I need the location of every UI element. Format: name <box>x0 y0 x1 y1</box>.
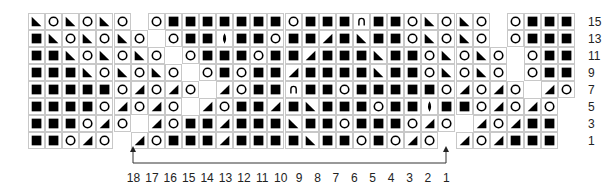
row-number-label: 15 <box>588 15 601 29</box>
stitch-number-label: 17 <box>143 171 160 185</box>
stitch-number-label: 4 <box>383 171 400 185</box>
stitch-number-label: 6 <box>346 171 363 185</box>
row-number-label: 9 <box>588 66 595 80</box>
stitch-number-label: 11 <box>254 171 271 185</box>
row-number-label: 5 <box>588 100 595 114</box>
stitch-number-label: 3 <box>401 171 418 185</box>
stitch-number-label: 13 <box>217 171 234 185</box>
stitch-number-label: 18 <box>125 171 142 185</box>
row-number-label: 1 <box>588 134 595 148</box>
stitch-number-label: 16 <box>162 171 179 185</box>
stitch-number-label: 15 <box>180 171 197 185</box>
stitch-number-label: 9 <box>291 171 308 185</box>
stitch-number-label: 8 <box>309 171 326 185</box>
stitch-number-label: 1 <box>438 171 455 185</box>
stitch-number-label: 7 <box>327 171 344 185</box>
stitch-number-label: 14 <box>199 171 216 185</box>
row-number-label: 11 <box>588 49 600 63</box>
stitch-number-label: 2 <box>419 171 436 185</box>
row-number-label: 13 <box>588 32 601 46</box>
row-number-label: 7 <box>588 83 595 97</box>
repeat-bracket <box>0 0 616 193</box>
stitch-number-label: 5 <box>364 171 381 185</box>
stitch-number-label: 10 <box>272 171 289 185</box>
row-number-label: 3 <box>588 117 595 131</box>
stitch-number-label: 12 <box>235 171 252 185</box>
